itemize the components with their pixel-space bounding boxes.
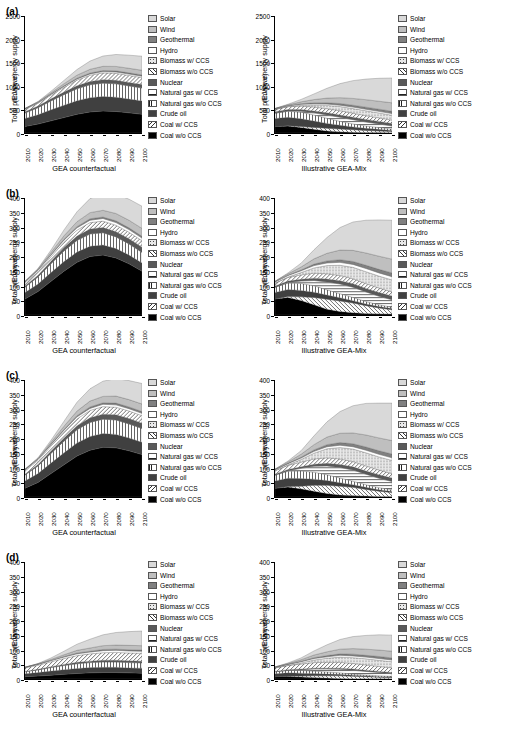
legend-swatch — [148, 100, 157, 107]
legend-label: Coal w/o CCS — [410, 313, 451, 324]
legend-item: Wind — [148, 207, 244, 218]
y-tick-label: 0 — [266, 495, 270, 502]
figure-root: (a)Total primary energy supply (EJ/year) — [0, 0, 509, 742]
y-tick-label: 150 — [9, 633, 20, 640]
y-tick-labels: 050100150200250300350400 — [6, 562, 22, 680]
x-tick-label: 2050 — [77, 512, 84, 526]
y-tick-label: 500 — [259, 107, 270, 114]
legend-label: Wind — [410, 207, 425, 218]
y-tick-label: 0 — [266, 313, 270, 320]
legend-swatch — [398, 453, 407, 460]
legend-swatch — [148, 271, 157, 278]
legend-swatch — [148, 464, 157, 471]
y-tick-label: 200 — [9, 618, 20, 625]
legend-item: Hydro — [148, 410, 244, 421]
legend-item: Geothermal — [148, 399, 244, 410]
x-tick-label: 2100 — [392, 512, 399, 526]
legend-swatch — [148, 625, 157, 632]
legend-item: Nuclear — [148, 442, 244, 453]
panel-a: (a)Total primary energy supply (EJ/year) — [0, 4, 509, 180]
legend-label: Coal w/o CCS — [160, 495, 201, 506]
chart-caption: Illustrative GEA-Mix — [264, 710, 404, 719]
legend-item: Biomass w/o CCS — [148, 431, 244, 442]
x-tick-label: 2090 — [379, 148, 386, 162]
x-tick-label: 2020 — [38, 148, 45, 162]
x-tick-label: 2030 — [301, 512, 308, 526]
legend-label: Wind — [160, 207, 175, 218]
legend-label: Solar — [160, 378, 175, 389]
y-tick-label: 300 — [259, 589, 270, 596]
legend-item: Nuclear — [398, 260, 494, 271]
legend-swatch — [148, 197, 157, 204]
legend-swatch — [148, 229, 157, 236]
x-tick-label: 2020 — [288, 512, 295, 526]
legend-swatch — [398, 208, 407, 215]
y-tick-label: 2000 — [256, 37, 270, 44]
x-tick-label: 2070 — [353, 694, 360, 708]
legend-swatch — [398, 593, 407, 600]
y-tick-label: 250 — [259, 239, 270, 246]
legend-label: Biomass w/ CCS — [160, 420, 209, 431]
x-tick-label: 2040 — [314, 694, 321, 708]
x-tick-label: 2080 — [116, 330, 123, 344]
legend-item: Natural gas w/ CCS — [398, 270, 494, 281]
y-tick-label: 150 — [9, 451, 20, 458]
legend-item: Geothermal — [148, 581, 244, 592]
x-tick-label: 2070 — [353, 148, 360, 162]
x-tick-label: 2010 — [25, 694, 32, 708]
x-tick-labels: 2010202020302040205020602070208020902100 — [24, 500, 144, 530]
y-tick-mark — [21, 680, 24, 681]
legend-item: Natural gas w/ CCS — [398, 634, 494, 645]
legend-item: Wind — [398, 571, 494, 582]
x-tick-label: 2020 — [288, 330, 295, 344]
legend-swatch — [398, 26, 407, 33]
y-tick-label: 400 — [259, 559, 270, 566]
legend-swatch — [148, 292, 157, 299]
x-tick-label: 2020 — [288, 148, 295, 162]
y-tick-label: 250 — [259, 421, 270, 428]
legend-swatch — [148, 121, 157, 128]
legend-swatch — [148, 614, 157, 621]
legend-swatch — [398, 79, 407, 86]
legend-label: Wind — [160, 571, 175, 582]
legend-item: Natural gas w/ CCS — [148, 452, 244, 463]
legend-item: Biomass w/o CCS — [398, 249, 494, 260]
legend-label: Solar — [410, 196, 425, 207]
legend-item: Crude oil — [398, 109, 494, 120]
legend-label: Nuclear — [410, 624, 433, 635]
y-tick-label: 300 — [9, 407, 20, 414]
panel-b: (b)Total primary energy supply (EJ/year) — [0, 186, 509, 362]
legend-item: Crude oil — [398, 473, 494, 484]
legend-label: Natural gas w/o CCS — [160, 645, 222, 656]
legend-label: Coal w/ CCS — [160, 666, 198, 677]
x-tick-label: 2040 — [314, 512, 321, 526]
legend-label: Nuclear — [160, 442, 183, 453]
x-tick-label: 2080 — [116, 512, 123, 526]
legend-label: Hydro — [410, 46, 428, 57]
stacked-areas — [25, 562, 142, 679]
legend-label: Natural gas w/o CCS — [410, 463, 472, 474]
stacked-areas — [25, 16, 142, 133]
y-tick-label: 250 — [9, 421, 20, 428]
legend-item: Coal w/ CCS — [398, 484, 494, 495]
legend-label: Solar — [160, 14, 175, 25]
x-tick-label: 2060 — [90, 148, 97, 162]
x-tick-label: 2090 — [129, 330, 136, 344]
x-tick-label: 2060 — [340, 694, 347, 708]
x-tick-label: 2100 — [392, 694, 399, 708]
legend-swatch — [398, 635, 407, 642]
legend-swatch — [148, 89, 157, 96]
legend-item: Wind — [398, 389, 494, 400]
y-tick-label: 350 — [259, 210, 270, 217]
y-tick-label: 0 — [16, 313, 20, 320]
y-tick-label: 2500 — [6, 13, 20, 20]
y-tick-label: 500 — [9, 107, 20, 114]
x-tick-label: 2100 — [142, 512, 149, 526]
legend-swatch — [398, 464, 407, 471]
y-tick-mark — [271, 316, 274, 317]
legend-label: Crude oil — [410, 291, 436, 302]
legend-item: Coal w/o CCS — [398, 677, 494, 688]
y-tick-labels: 05001000150020002500 — [256, 16, 272, 134]
x-tick-label: 2060 — [340, 148, 347, 162]
legend-label: Hydro — [410, 410, 428, 421]
